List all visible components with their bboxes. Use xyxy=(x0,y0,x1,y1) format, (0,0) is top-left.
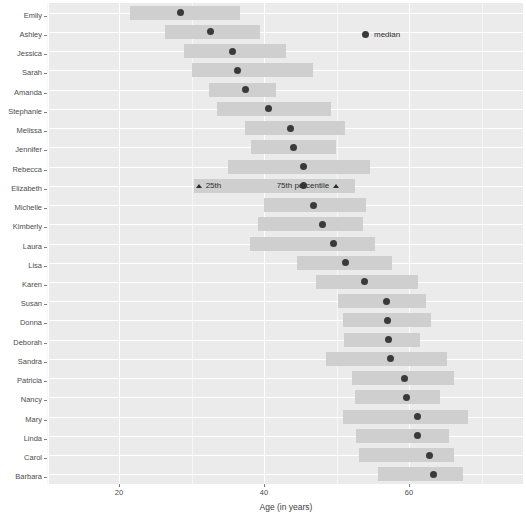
median-dot xyxy=(342,259,349,266)
annotation-p25: 25th xyxy=(196,181,222,190)
iqr-bar xyxy=(228,160,370,174)
iqr-bar xyxy=(192,63,313,77)
gridline-major-horizontal xyxy=(49,13,523,14)
gridline-major-horizontal xyxy=(49,320,523,321)
y-axis-tick xyxy=(44,400,47,401)
iqr-bar xyxy=(217,102,331,116)
y-axis-tick-label: Emily xyxy=(0,12,42,20)
median-dot xyxy=(290,144,297,151)
y-axis-tick-label: Nancy xyxy=(0,396,42,404)
y-axis-tick-label: Sarah xyxy=(0,69,42,77)
y-axis-tick xyxy=(44,189,47,190)
y-axis-tick-label: Deborah xyxy=(0,339,42,347)
y-axis-tick-label: Jessica xyxy=(0,50,42,58)
y-axis-tick-label: Patricia xyxy=(0,377,42,385)
y-axis-tick-label: Carol xyxy=(0,454,42,462)
iqr-bar xyxy=(356,429,449,443)
gridline-major-horizontal xyxy=(49,397,523,398)
plot-panel: 25th75th percentile xyxy=(49,3,523,484)
median-dot xyxy=(426,452,433,459)
y-axis-tick xyxy=(44,266,47,267)
y-axis-tick-label: Laura xyxy=(0,243,42,251)
y-axis-tick xyxy=(44,477,47,478)
y-axis-tick-label: Amanda xyxy=(0,89,42,97)
y-axis: EmilyAshleyJessicaSarahAmandaStephanieMe… xyxy=(0,3,49,484)
median-dot xyxy=(229,48,236,55)
median-dot xyxy=(300,163,307,170)
gridline-major-horizontal xyxy=(49,282,523,283)
y-axis-tick xyxy=(44,170,47,171)
x-axis-tick xyxy=(119,484,120,487)
y-axis-tick-label: Lisa xyxy=(0,262,42,270)
median-dot xyxy=(287,125,294,132)
median-dot xyxy=(401,375,408,382)
y-axis-tick-label: Ashley xyxy=(0,31,42,39)
y-axis-tick xyxy=(44,285,47,286)
legend-median: median xyxy=(362,30,400,39)
legend-median-label: median xyxy=(374,30,400,39)
x-axis: 204060 xyxy=(49,484,523,502)
y-axis-tick xyxy=(44,208,47,209)
y-axis-tick xyxy=(44,420,47,421)
gridline-major-horizontal xyxy=(49,263,523,264)
x-axis-tick-label: 60 xyxy=(405,488,413,497)
iqr-bar xyxy=(359,448,454,462)
x-axis-tick-label: 20 xyxy=(115,488,123,497)
annotation-p75-label: 75th percentile xyxy=(277,181,329,190)
y-axis-tick-label: Linda xyxy=(0,435,42,443)
y-axis-tick xyxy=(44,343,47,344)
y-axis-tick xyxy=(44,16,47,17)
median-dot-icon xyxy=(362,31,369,38)
y-axis-tick-label: Elizabeth xyxy=(0,185,42,193)
median-dot xyxy=(319,221,326,228)
y-axis-tick xyxy=(44,112,47,113)
y-axis-tick xyxy=(44,227,47,228)
y-axis-tick-label: Susan xyxy=(0,300,42,308)
y-axis-tick xyxy=(44,35,47,36)
y-axis-tick xyxy=(44,362,47,363)
y-axis-tick xyxy=(44,150,47,151)
y-axis-tick-label: Kimberly xyxy=(0,223,42,231)
gridline-major-horizontal xyxy=(49,32,523,33)
triangle-up-icon xyxy=(196,184,202,188)
x-axis-tick xyxy=(409,484,410,487)
x-axis-tick xyxy=(264,484,265,487)
median-dot xyxy=(403,394,410,401)
iqr-bar xyxy=(250,237,375,251)
y-axis-tick-label: Karen xyxy=(0,281,42,289)
y-axis-tick xyxy=(44,381,47,382)
y-axis-tick-label: Barbara xyxy=(0,473,42,481)
y-axis-tick-label: Melissa xyxy=(0,127,42,135)
y-axis-tick xyxy=(44,73,47,74)
y-axis-tick xyxy=(44,439,47,440)
median-dot xyxy=(310,202,317,209)
median-dot xyxy=(383,298,390,305)
y-axis-tick-label: Jennifer xyxy=(0,146,42,154)
median-dot xyxy=(430,471,437,478)
iqr-bar xyxy=(378,467,464,481)
y-axis-tick xyxy=(44,323,47,324)
iqr-bar xyxy=(245,121,345,135)
y-axis-tick-label: Rebecca xyxy=(0,166,42,174)
iqr-bar xyxy=(344,333,420,347)
x-axis-tick-label: 40 xyxy=(260,488,268,497)
y-axis-tick xyxy=(44,54,47,55)
y-axis-tick-label: Mary xyxy=(0,416,42,424)
gridline-major-horizontal xyxy=(49,340,523,341)
annotation-p75: 75th percentile xyxy=(277,181,339,190)
y-axis-tick xyxy=(44,458,47,459)
iqr-bar xyxy=(355,390,441,404)
triangle-up-icon xyxy=(333,184,339,188)
iqr-bar xyxy=(343,410,468,424)
y-axis-tick-label: Michelle xyxy=(0,204,42,212)
y-axis-tick-label: Sandra xyxy=(0,358,42,366)
gridline-major-horizontal xyxy=(49,359,523,360)
percentile-range-chart: 25th75th percentile EmilyAshleyJessicaSa… xyxy=(0,0,526,516)
x-axis-title: Age (in years) xyxy=(49,502,523,512)
gridline-major-horizontal xyxy=(49,90,523,91)
iqr-bar xyxy=(258,217,362,231)
y-axis-tick xyxy=(44,131,47,132)
iqr-bar xyxy=(130,6,240,20)
y-axis-tick-label: Donna xyxy=(0,319,42,327)
gridline-major-horizontal xyxy=(49,301,523,302)
